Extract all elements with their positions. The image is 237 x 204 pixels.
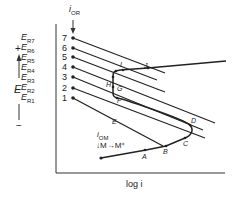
reaction-label: ↓M→M⁺ bbox=[96, 141, 125, 150]
tick-4: 4 bbox=[62, 63, 67, 72]
point-e: E bbox=[112, 117, 117, 126]
cathodic-lines bbox=[73, 38, 215, 146]
tick-7: 7 bbox=[62, 34, 67, 43]
minus-sign: − bbox=[16, 121, 22, 130]
tick-5: 5 bbox=[62, 53, 67, 62]
point-a: A bbox=[142, 152, 147, 161]
point-h: H bbox=[106, 80, 111, 89]
tick-2: 2 bbox=[62, 84, 67, 93]
potential-label-1: ER1 bbox=[21, 93, 35, 106]
x-axis-label: log i bbox=[126, 180, 143, 189]
plus-sign: + bbox=[15, 44, 21, 53]
tick-1: 1 bbox=[62, 94, 67, 103]
down-arrow-icon bbox=[71, 28, 76, 34]
point-d: D bbox=[191, 116, 196, 125]
point-j: J bbox=[144, 61, 148, 70]
point-b: B bbox=[163, 147, 168, 156]
y-axis-label: E bbox=[14, 85, 21, 94]
point-f: F bbox=[117, 96, 121, 105]
i-or-label: iOR bbox=[69, 5, 80, 18]
tick-3: 3 bbox=[62, 73, 67, 82]
point-g: G bbox=[117, 84, 122, 93]
point-c: C bbox=[183, 139, 188, 148]
point-i: I bbox=[120, 60, 122, 69]
